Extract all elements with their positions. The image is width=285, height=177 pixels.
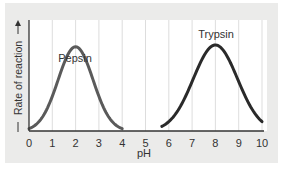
x-tick-label: 2 [73, 137, 79, 149]
trypsin-label: Trypsin [198, 28, 234, 40]
x-tick-label: 6 [166, 137, 172, 149]
x-tick-label: 0 [26, 137, 32, 149]
x-tick-label: 10 [256, 137, 268, 149]
x-axis-label: pH [137, 147, 151, 159]
x-tick-label: 3 [96, 137, 102, 149]
y-axis-label: Rate of reaction [12, 41, 24, 115]
x-tick-label: 4 [119, 137, 125, 149]
pepsin-label: Pepsin [58, 52, 92, 64]
x-tick-label: 9 [236, 137, 242, 149]
x-tick-label: 1 [49, 137, 55, 149]
x-tick-label: 7 [189, 137, 195, 149]
rate-vs-ph-chart: 012345678910 pH Rate of reaction Pepsin … [0, 0, 285, 177]
x-tick-label: 8 [212, 137, 218, 149]
arrow-up-icon [15, 20, 21, 26]
y-axis-label-group: Rate of reaction [12, 20, 24, 132]
